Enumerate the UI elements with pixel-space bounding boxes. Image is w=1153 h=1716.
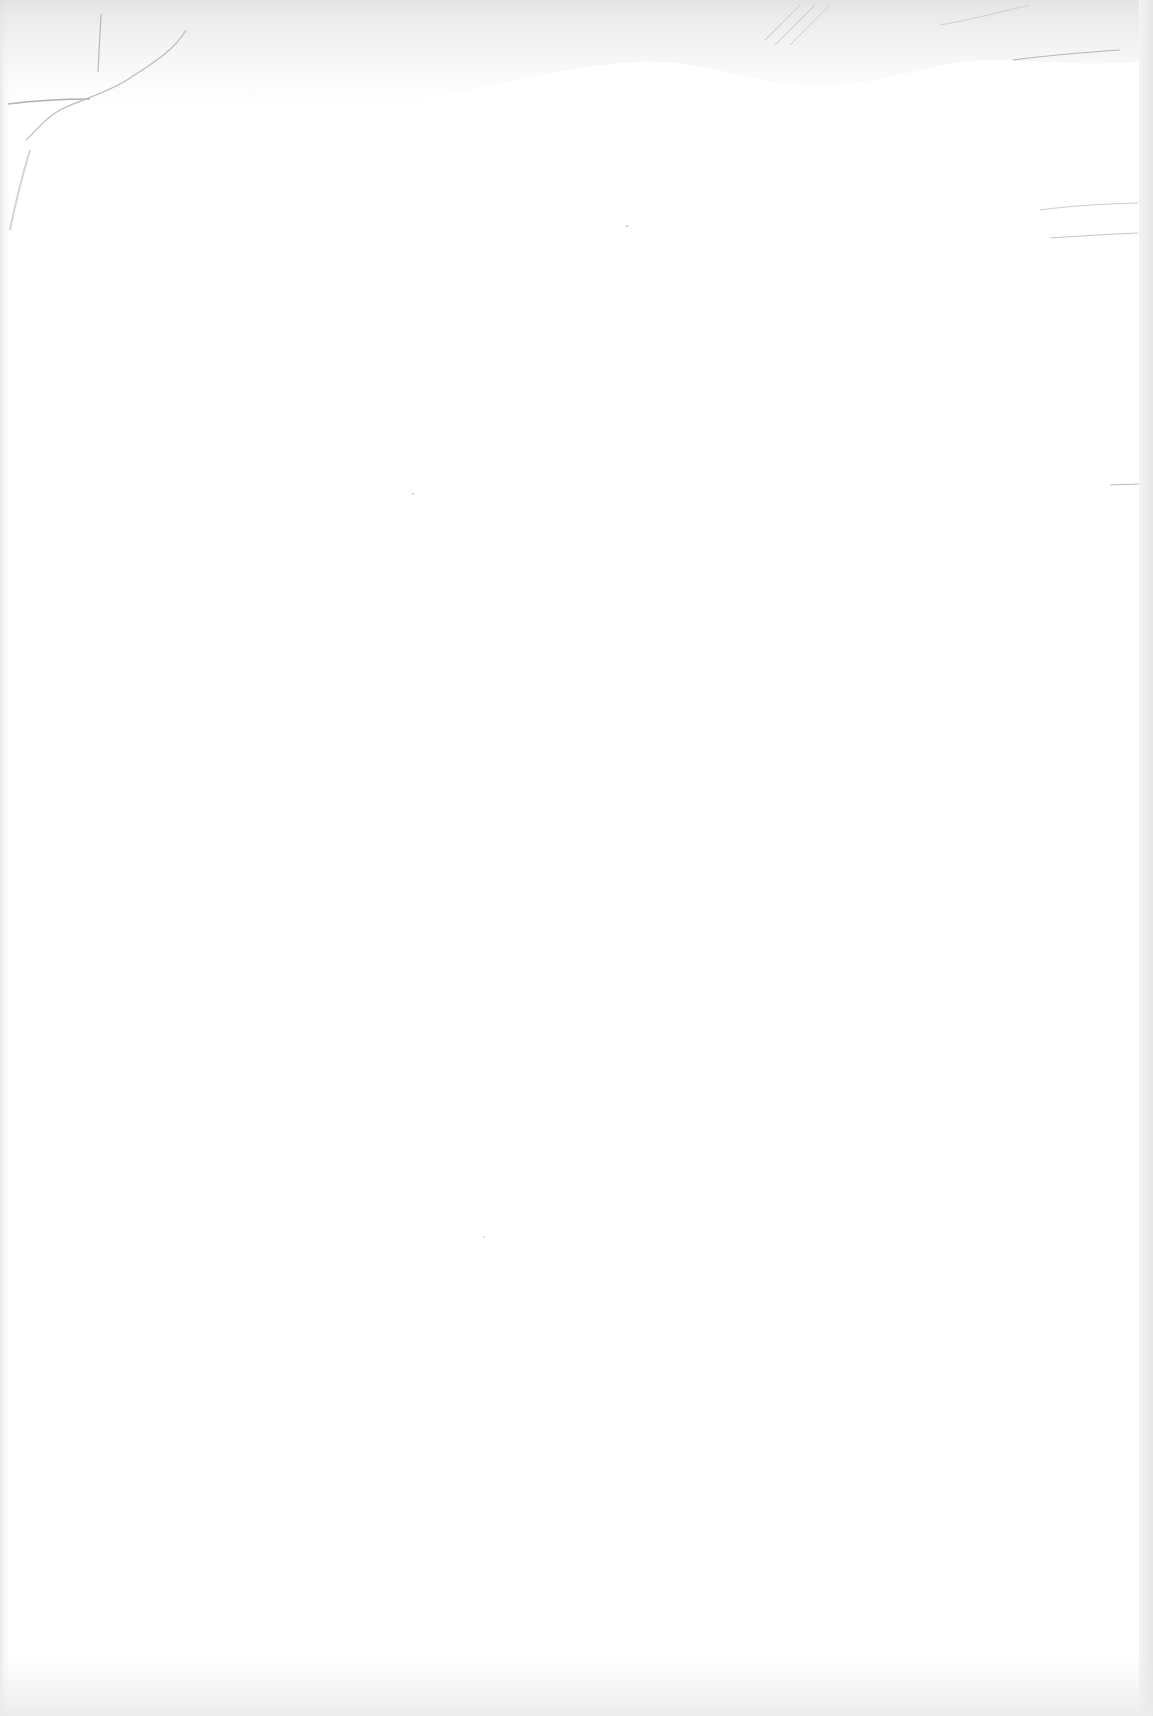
paper-crease-marks [0,0,1153,1716]
scan-right-edge [1139,0,1153,1716]
bottom-paper-discoloration [0,1656,1153,1716]
blank-page [0,0,1153,1716]
